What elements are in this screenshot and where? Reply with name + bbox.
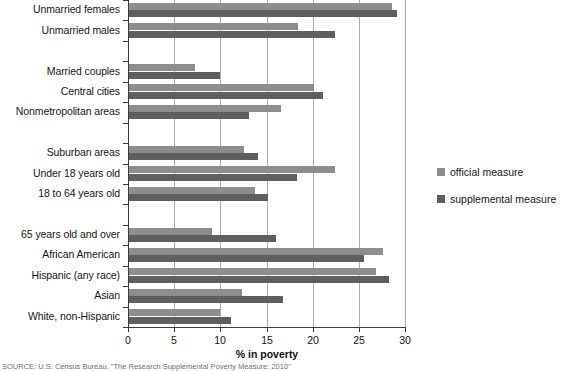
bar-supplemental — [129, 10, 397, 17]
x-axis-title: % in poverty — [128, 348, 406, 360]
bar-supplemental — [129, 255, 364, 262]
category-label-hispanic-any-race: Hispanic (any race) — [0, 270, 124, 281]
bar-official — [129, 64, 195, 71]
y-tick — [123, 204, 128, 205]
category-label-white-non-hispanic: White, non-Hispanic — [0, 311, 124, 322]
y-tick — [123, 245, 128, 246]
bar-official — [129, 105, 281, 112]
x-tick-label-25: 25 — [344, 334, 374, 346]
y-tick — [123, 225, 128, 226]
bar-supplemental — [129, 194, 268, 201]
bar-supplemental — [129, 317, 231, 324]
x-tick-label-30: 30 — [390, 334, 420, 346]
bar-supplemental — [129, 174, 297, 181]
legend-swatch-official-icon — [437, 168, 445, 176]
x-tick-label-10: 10 — [205, 334, 235, 346]
source-note: SOURCE: U.S. Census Bureau, "The Researc… — [2, 362, 291, 371]
category-label-unmarried-females: Unmarried females — [0, 4, 124, 15]
x-tick-label-5: 5 — [159, 334, 189, 346]
category-label-nonmetropolitan-areas: Nonmetropolitan areas — [0, 106, 124, 117]
legend-item-supplemental: supplemental measure — [437, 193, 556, 205]
bar-supplemental — [129, 276, 389, 283]
y-tick — [123, 327, 128, 328]
bar-official — [129, 248, 383, 255]
x-tick-0 — [128, 327, 129, 332]
bar-supplemental — [129, 92, 323, 99]
bar-official — [129, 228, 212, 235]
category-label-under-18-years-old: Under 18 years old — [0, 168, 124, 179]
legend-swatch-supplemental-icon — [437, 195, 445, 203]
y-tick — [123, 20, 128, 21]
x-tick-25 — [359, 327, 360, 332]
x-tick-20 — [313, 327, 314, 332]
plot-area — [128, 0, 405, 327]
bar-supplemental — [129, 153, 258, 160]
y-tick — [123, 266, 128, 267]
category-label-central-cities: Central cities — [0, 86, 124, 97]
bar-supplemental — [129, 235, 276, 242]
bar-official — [129, 84, 314, 91]
bar-official — [129, 146, 244, 153]
y-tick — [123, 41, 128, 42]
category-label-unmarried-males: Unmarried males — [0, 25, 124, 36]
bar-official — [129, 3, 392, 10]
category-label-18-to-64-years-old: 18 to 64 years old — [0, 188, 124, 199]
legend-label-official: official measure — [450, 166, 523, 178]
y-tick — [123, 82, 128, 83]
x-tick-label-20: 20 — [298, 334, 328, 346]
bar-supplemental — [129, 72, 220, 79]
y-tick — [123, 143, 128, 144]
x-tick-30 — [405, 327, 406, 332]
x-tick-label-15: 15 — [252, 334, 282, 346]
bar-official — [129, 166, 335, 173]
gridline-30 — [405, 0, 406, 327]
bar-official — [129, 268, 376, 275]
bar-official — [129, 23, 298, 30]
bar-supplemental — [129, 112, 249, 119]
category-label-suburban-areas: Suburban areas — [0, 147, 124, 158]
y-tick — [123, 61, 128, 62]
chart-legend: official measure supplemental measure — [437, 166, 556, 220]
x-tick-5 — [174, 327, 175, 332]
bar-official — [129, 289, 242, 296]
y-tick — [123, 102, 128, 103]
x-tick-15 — [267, 327, 268, 332]
x-tick-label-0: 0 — [113, 334, 143, 346]
bar-supplemental — [129, 296, 283, 303]
y-tick — [123, 123, 128, 124]
category-label-married-couples: Married couples — [0, 66, 124, 77]
bar-supplemental — [129, 31, 335, 38]
bar-official — [129, 309, 220, 316]
category-label-asian: Asian — [0, 290, 124, 301]
y-tick — [123, 164, 128, 165]
x-tick-10 — [220, 327, 221, 332]
y-tick — [123, 184, 128, 185]
legend-label-supplemental: supplemental measure — [450, 193, 556, 205]
y-tick — [123, 307, 128, 308]
legend-item-official: official measure — [437, 166, 556, 178]
bar-official — [129, 187, 255, 194]
category-label-african-american: African American — [0, 249, 124, 260]
category-label-65-years-old-and-over: 65 years old and over — [0, 229, 124, 240]
y-tick — [123, 286, 128, 287]
y-tick — [123, 0, 128, 1]
